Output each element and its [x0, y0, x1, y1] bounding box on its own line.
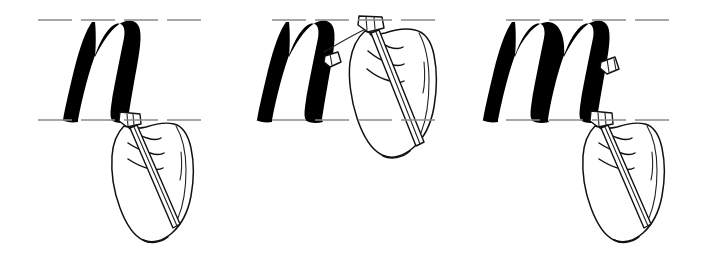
right-hand-illustration — [583, 123, 664, 242]
panel-1: n — [0, 0, 234, 261]
panel-3-artwork — [468, 0, 702, 261]
chisel-nib-icon — [358, 16, 384, 32]
panel-2-artwork — [234, 0, 468, 261]
right-hand-illustration — [112, 123, 193, 242]
panel-3: m — [468, 0, 702, 261]
illustration-canvas: n — [0, 0, 702, 261]
right-hand-illustration — [349, 29, 436, 158]
panel-2: n — [234, 0, 468, 261]
chisel-nib-icon — [590, 111, 613, 127]
panel-1-artwork — [0, 0, 234, 261]
letter-n-glyph — [256, 21, 335, 124]
chisel-nib-icon — [119, 112, 141, 127]
letter-m-glyph — [482, 21, 610, 124]
letter-n-glyph — [62, 21, 141, 124]
